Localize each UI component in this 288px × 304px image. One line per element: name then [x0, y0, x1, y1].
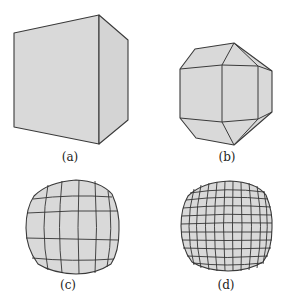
label-d: (d): [217, 278, 234, 292]
cube-side-face: [99, 15, 128, 144]
label-b: (b): [218, 150, 235, 164]
panel-c-coarse-rounded-cube: [26, 180, 119, 274]
panel-a-cube: [14, 15, 128, 144]
label-a: (a): [62, 150, 79, 164]
panel-d-fine-rounded-cube: [181, 181, 272, 271]
label-c: (c): [60, 278, 76, 292]
cube-front-face: [14, 15, 99, 144]
figure-canvas: [0, 0, 288, 304]
panel-b-beveled-cube: [180, 43, 272, 145]
